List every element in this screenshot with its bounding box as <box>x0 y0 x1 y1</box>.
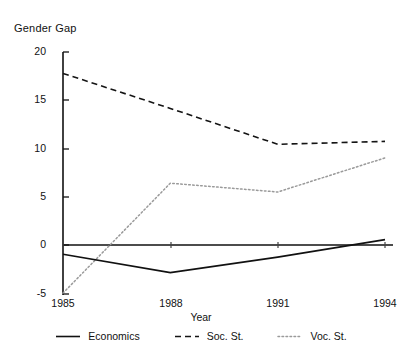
legend-swatch-solid-icon <box>55 332 81 341</box>
series-line-voc-st <box>63 158 385 293</box>
legend-swatch-dashed-icon <box>174 332 200 341</box>
chart-figure: Gender Gap 20 15 10 5 0 <box>0 0 402 361</box>
x-axis-title: Year <box>0 311 402 323</box>
legend-item-voc-st: Voc. St. <box>277 330 346 342</box>
y-tick-label-20: 20 <box>18 45 46 57</box>
y-tick-label-5: 5 <box>18 190 46 202</box>
y-tick-label-0: 0 <box>18 238 46 250</box>
x-tick-label-1985: 1985 <box>39 297 87 309</box>
y-tick-label-15: 15 <box>18 93 46 105</box>
x-tick-label-1991: 1991 <box>254 297 302 309</box>
legend-label-soc-st: Soc. St. <box>207 330 244 342</box>
legend-label-voc-st: Voc. St. <box>310 330 346 342</box>
x-tick-label-1988: 1988 <box>147 297 195 309</box>
legend-swatch-dotted-icon <box>277 332 303 341</box>
chart-legend: Economics Soc. St. Voc. St. <box>0 330 402 342</box>
y-axis-ticks <box>63 52 69 294</box>
y-tick-label-10: 10 <box>18 142 46 154</box>
legend-label-economics: Economics <box>88 330 139 342</box>
series-line-soc-st <box>63 73 385 144</box>
legend-item-soc-st: Soc. St. <box>174 330 244 342</box>
legend-item-economics: Economics <box>55 330 139 342</box>
x-tick-label-1994: 1994 <box>361 297 402 309</box>
